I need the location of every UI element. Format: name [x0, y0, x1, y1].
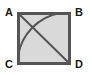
vertex-label-a: A [5, 7, 13, 18]
geometry-figure: A B C D [0, 0, 92, 75]
vertex-label-d: D [75, 59, 83, 70]
vertex-label-b: B [75, 7, 83, 18]
vertex-label-c: C [5, 59, 13, 70]
